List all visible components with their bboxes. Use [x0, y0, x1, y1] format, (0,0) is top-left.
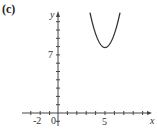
- chart-plot: -2 0 5 7 x y: [0, 0, 157, 130]
- y-tick-label-7: 7: [48, 49, 53, 60]
- x-tick-label-neg2: -2: [33, 115, 41, 126]
- x-tick-label-5: 5: [102, 116, 107, 127]
- x-tick-label-0: 0: [51, 115, 56, 126]
- x-axis-label: x: [149, 115, 155, 126]
- y-axis-label: y: [49, 9, 55, 20]
- parabola-curve: [90, 13, 120, 48]
- y-axis-arrow-icon: [56, 11, 60, 17]
